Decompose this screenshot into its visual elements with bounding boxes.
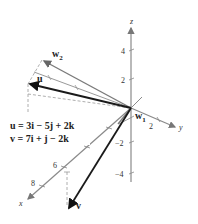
z-tick-neg2: −2	[115, 139, 124, 148]
z-tick-4: 4	[121, 47, 125, 56]
equation-u: u = 3i − 5j + 2k	[10, 120, 75, 131]
z-tick-2: 2	[121, 76, 125, 85]
x-tick-8: 8	[31, 179, 35, 188]
projection-guide	[34, 72, 131, 108]
vector-diagram: z 4 2 −2 −4 y 2 x 6 8 w2	[0, 0, 198, 224]
v-label: v	[76, 200, 81, 211]
z-axis: z 4 2 −2 −4	[115, 17, 134, 182]
y-tick-2: 2	[149, 122, 153, 131]
x-axis-label: x	[18, 199, 23, 208]
x-tick-6: 6	[53, 161, 57, 170]
equation-v: v = 7i + j − 2k	[10, 133, 69, 144]
equations: u = 3i − 5j + 2k v = 7i + j − 2k	[8, 119, 90, 145]
u-label: u	[37, 73, 43, 84]
z-tick-neg4: −4	[115, 170, 124, 179]
w1-label: w1	[135, 110, 146, 124]
y-axis-label: y	[178, 123, 183, 132]
z-axis-label: z	[129, 17, 134, 26]
vector-w2: w2	[44, 48, 131, 108]
w2-label: w2	[52, 48, 63, 62]
